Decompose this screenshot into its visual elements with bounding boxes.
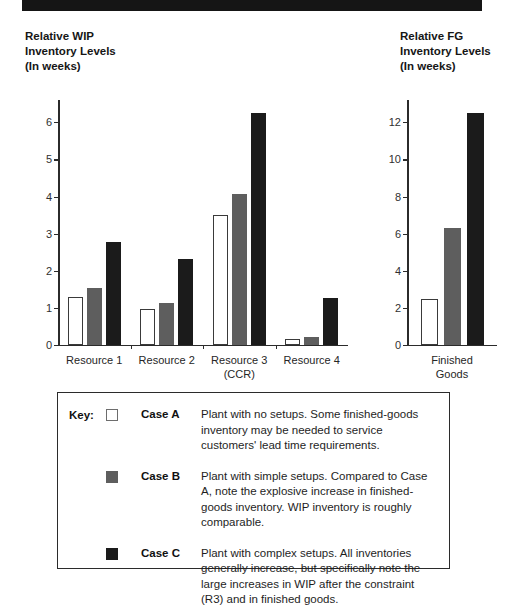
wip-bar-group	[58, 100, 131, 345]
fg-y-tick-label: 2	[395, 302, 401, 314]
wip-bar-case-c	[178, 259, 193, 344]
key-entry-description: Plant with simple setups. Compared to Ca…	[201, 469, 439, 531]
wip-bar-chart: 0123456 Resource 1Resource 2Resource 3 (…	[58, 100, 348, 346]
key-entry-description: Plant with complex setups. All inventori…	[201, 546, 439, 608]
black-square-swatch	[106, 548, 118, 560]
key-entry-name: Case C	[141, 546, 201, 559]
fg-x-label: Finished Goods	[407, 346, 497, 381]
fg-y-tick-label: 10	[389, 153, 401, 165]
fg-y-tick-label: 8	[395, 191, 401, 203]
wip-x-label: Resource 1	[58, 346, 131, 381]
wip-y-tick-label: 4	[46, 191, 52, 203]
wip-bar-group	[276, 100, 349, 345]
wip-chart-title: Relative WIP Inventory Levels (In weeks)	[25, 29, 116, 74]
wip-bar-groups	[58, 100, 348, 345]
fg-bar-chart: 024681012 Finished Goods	[407, 100, 497, 346]
wip-bar-case-a	[140, 309, 155, 345]
key-entry-name: Case B	[141, 469, 201, 482]
key-entry: Case CPlant with complex setups. All inv…	[106, 546, 439, 608]
key-entry: Case APlant with no setups. Some finishe…	[106, 407, 439, 454]
fg-bar-case-b	[444, 228, 461, 345]
key-entry-description: Plant with no setups. Some finished-good…	[201, 407, 439, 454]
fg-x-labels: Finished Goods	[407, 346, 497, 381]
wip-y-tick-label: 0	[46, 339, 52, 351]
key-label: Key:	[69, 409, 94, 421]
wip-bar-group	[203, 100, 276, 345]
wip-x-label: Resource 3 (CCR)	[203, 346, 276, 381]
wip-bar-case-c	[251, 113, 266, 345]
legend-key-box: Key: Case APlant with no setups. Some fi…	[57, 392, 450, 569]
fg-bar-groups	[407, 100, 497, 345]
top-banner-strip	[22, 0, 482, 11]
wip-x-label: Resource 4	[276, 346, 349, 381]
fg-chart-title: Relative FG Inventory Levels (In weeks)	[400, 29, 491, 74]
wip-y-tick-label: 6	[46, 116, 52, 128]
wip-bar-case-b	[232, 194, 247, 344]
wip-y-tick-label: 2	[46, 265, 52, 277]
fg-bar-group	[407, 100, 497, 345]
fg-y-tick-label: 6	[395, 228, 401, 240]
gray-square-swatch	[106, 471, 118, 483]
wip-bar-case-b	[87, 288, 102, 344]
wip-bar-case-c	[323, 298, 338, 344]
fg-y-tick-label: 4	[395, 265, 401, 277]
wip-bar-case-b	[304, 337, 319, 344]
key-entry-name: Case A	[141, 407, 201, 420]
key-entry: Case BPlant with simple setups. Compared…	[106, 469, 439, 531]
wip-bar-case-a	[213, 215, 228, 345]
fg-y-tick-label: 0	[395, 339, 401, 351]
wip-y-tick-label: 3	[46, 228, 52, 240]
wip-bar-case-a	[68, 297, 83, 345]
wip-bar-case-b	[159, 303, 174, 345]
fg-bar-case-a	[421, 299, 438, 344]
wip-bar-group	[131, 100, 204, 345]
wip-x-labels: Resource 1Resource 2Resource 3 (CCR)Reso…	[58, 346, 348, 381]
wip-bar-case-c	[106, 242, 121, 344]
white-square-swatch	[106, 409, 118, 421]
wip-y-tick-label: 1	[46, 302, 52, 314]
wip-bar-case-a	[285, 339, 300, 345]
key-entries: Case APlant with no setups. Some finishe…	[106, 407, 439, 608]
wip-x-label: Resource 2	[131, 346, 204, 381]
fg-bar-case-c	[467, 113, 484, 345]
wip-y-tick-label: 5	[46, 153, 52, 165]
fg-y-tick-label: 12	[389, 116, 401, 128]
